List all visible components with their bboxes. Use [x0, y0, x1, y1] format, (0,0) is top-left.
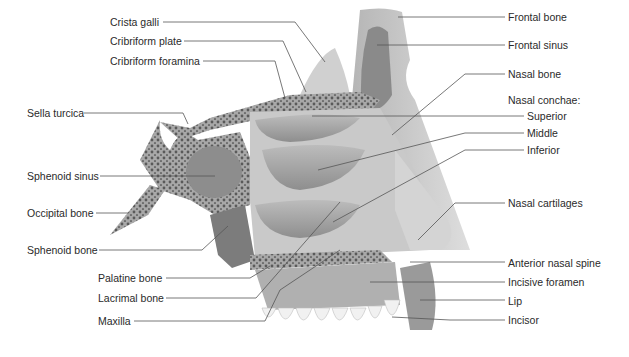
- label-nasal-cartilages: Nasal cartilages: [508, 197, 583, 209]
- crista-galli-shape: [300, 48, 350, 95]
- leader-line-cribriform-foramina: [203, 61, 285, 98]
- label-sphenoid-bone: Sphenoid bone: [27, 244, 98, 256]
- label-lip: Lip: [508, 295, 522, 307]
- label-nasal-bone: Nasal bone: [508, 68, 561, 80]
- label-incisor: Incisor: [508, 314, 539, 326]
- label-superior-concha: Superior: [527, 110, 567, 122]
- label-anterior-nasal-spine: Anterior nasal spine: [508, 257, 601, 269]
- sphenoid-sinus-shape: [186, 146, 242, 198]
- occipital-shape: [110, 185, 165, 235]
- label-nasal-conchae: Nasal conchae:: [508, 94, 580, 106]
- label-crista-galli: Crista galli: [110, 16, 159, 28]
- label-sphenoid-sinus: Sphenoid sinus: [27, 170, 99, 182]
- leader-line-cribriform-plate: [184, 41, 306, 92]
- label-incisive-foramen: Incisive foramen: [508, 276, 584, 288]
- leader-line-sella-turcica: [84, 113, 188, 124]
- label-maxilla: Maxilla: [98, 315, 131, 327]
- nasal-cavity-diagram: Crista galli Cribriform plate Cribriform…: [0, 0, 629, 357]
- label-middle-concha: Middle: [527, 127, 558, 139]
- gum: [255, 262, 400, 310]
- label-cribriform-foramina: Cribriform foramina: [110, 55, 200, 67]
- label-cribriform-plate: Cribriform plate: [110, 35, 182, 47]
- label-lacrimal-bone: Lacrimal bone: [98, 292, 164, 304]
- lip-shape: [400, 262, 436, 330]
- label-inferior-concha: Inferior: [527, 144, 560, 156]
- label-frontal-sinus: Frontal sinus: [508, 39, 568, 51]
- label-sella-turcica: Sella turcica: [27, 107, 84, 119]
- label-palatine-bone: Palatine bone: [98, 272, 162, 284]
- label-frontal-bone: Frontal bone: [508, 11, 567, 23]
- label-occipital-bone: Occipital bone: [27, 207, 94, 219]
